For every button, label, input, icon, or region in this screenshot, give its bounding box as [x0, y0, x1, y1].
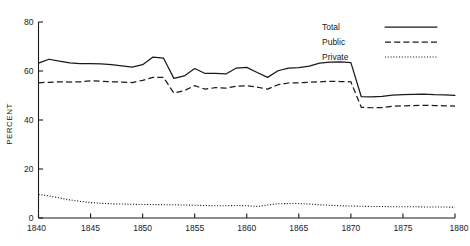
legend-label-public: Public: [322, 37, 346, 47]
x-tick-label-1870: 1870: [341, 223, 360, 233]
x-tick-label-1845: 1845: [81, 223, 100, 233]
legend-label-total: Total: [322, 22, 340, 32]
x-tick-label-1855: 1855: [185, 223, 204, 233]
series-line-public: [39, 77, 456, 107]
x-tick-label-1880: 1880: [450, 223, 469, 233]
x-axis-ticks: 184018451850185518601865187018751880: [27, 214, 469, 234]
axes: [39, 22, 456, 218]
chart-legend: TotalPublicPrivate: [322, 22, 437, 62]
series-line-total: [39, 57, 456, 97]
legend-label-private: Private: [322, 52, 349, 62]
x-tick-label-1875: 1875: [393, 223, 412, 233]
series-line-private: [39, 194, 456, 207]
y-axis-title: PERCENT: [5, 103, 14, 145]
y-axis-ticks: 020406080: [24, 17, 43, 223]
x-tick-label-1865: 1865: [289, 223, 308, 233]
y-tick-label-0: 0: [29, 213, 34, 223]
x-tick-label-1840: 1840: [27, 223, 46, 233]
x-tick-label-1860: 1860: [237, 223, 256, 233]
x-tick-label-1850: 1850: [133, 223, 152, 233]
chart-container: 020406080 184018451850185518601865187018…: [0, 0, 470, 246]
y-tick-label-40: 40: [24, 115, 34, 125]
y-tick-label-60: 60: [24, 66, 34, 76]
line-chart-plot: 020406080 184018451850185518601865187018…: [0, 0, 470, 246]
y-tick-label-80: 80: [24, 17, 34, 27]
y-tick-label-20: 20: [24, 164, 34, 174]
data-series-group: [39, 57, 456, 207]
